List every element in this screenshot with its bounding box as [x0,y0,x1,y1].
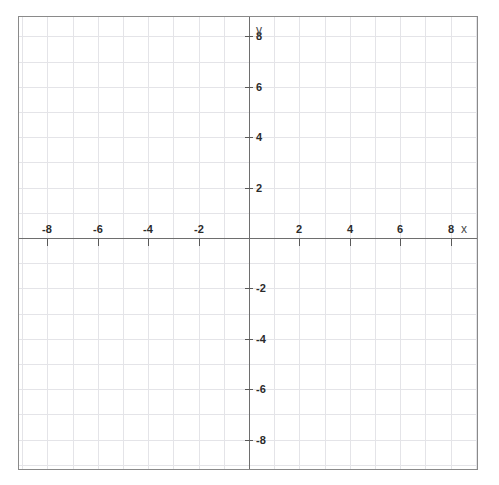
y-tick-mark [245,36,253,37]
coordinate-plane: -8-6-4-224688642-2-4-6-8 y x [18,16,478,470]
x-tick-mark [400,239,401,246]
y-tick-mark [245,137,253,138]
caption-strip: ​ [0,0,499,4]
gridline-horizontal [19,62,477,63]
y-tick-label: -6 [256,383,266,395]
x-tick-mark [47,239,48,246]
x-tick-mark [299,239,300,246]
gridline-vertical [274,17,275,469]
y-tick-mark [245,440,253,441]
y-tick-label: 6 [256,81,262,93]
y-tick-mark [245,288,253,289]
x-tick-mark [451,239,452,246]
x-tick-label: 4 [347,223,353,235]
gridline-vertical [73,17,74,469]
gridline-horizontal [19,162,477,163]
y-tick-label: -4 [256,333,266,345]
gridline-horizontal [19,314,477,315]
gridline-vertical [476,17,477,469]
gridline-vertical [224,17,225,469]
y-tick-mark [245,188,253,189]
grid-lines [19,17,477,469]
y-axis [249,17,250,469]
y-tick-label: -2 [256,282,266,294]
gridline-horizontal [19,364,477,365]
x-tick-label: 8 [448,223,454,235]
gridline-vertical [425,17,426,469]
gridline-vertical [22,17,23,469]
gridline-horizontal [19,263,477,264]
gridline-vertical [173,17,174,469]
y-tick-mark [245,339,253,340]
x-tick-label: -4 [143,223,153,235]
gridline-horizontal [19,213,477,214]
y-tick-label: -8 [256,434,266,446]
x-axis-label: x [461,222,467,236]
x-tick-label: -2 [194,223,204,235]
y-tick-mark [245,87,253,88]
y-axis-label: y [256,23,262,37]
y-tick-label: 2 [256,182,262,194]
x-tick-mark [148,239,149,246]
x-tick-mark [350,239,351,246]
gridline-horizontal [19,112,477,113]
x-tick-label: -6 [93,223,103,235]
x-tick-label: 6 [397,223,403,235]
x-tick-label: 2 [296,223,302,235]
gridline-horizontal [19,465,477,466]
x-tick-mark [199,239,200,246]
x-axis [19,238,477,239]
x-tick-mark [98,239,99,246]
x-tick-label: -8 [42,223,52,235]
gridline-horizontal [19,414,477,415]
gridline-vertical [375,17,376,469]
y-tick-mark [245,389,253,390]
gridline-vertical [325,17,326,469]
gridline-vertical [123,17,124,469]
y-tick-label: 4 [256,131,262,143]
